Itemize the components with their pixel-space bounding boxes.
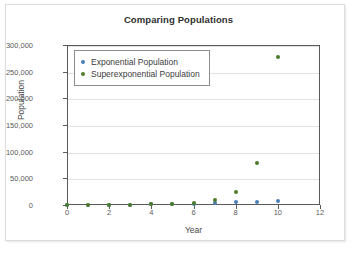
chart-figure: Comparing Populations Population Year 05…	[0, 0, 357, 255]
data-point	[276, 55, 280, 59]
y-axis-tick-mark	[63, 125, 67, 126]
data-point	[170, 202, 174, 206]
data-point	[255, 200, 259, 204]
gridline	[68, 99, 319, 100]
data-point	[128, 203, 132, 207]
x-axis-tick-label: 8	[234, 208, 238, 217]
y-axis-tick-mark	[63, 178, 67, 179]
data-point	[255, 161, 259, 165]
data-point	[86, 203, 90, 207]
x-axis-tick-mark	[320, 205, 321, 209]
y-axis-tick-label: 50,000	[0, 174, 33, 183]
legend-item: Superexponential Population	[81, 68, 200, 80]
data-point	[107, 203, 111, 207]
chart-legend: Exponential PopulationSuperexponential P…	[74, 50, 210, 86]
gridline	[68, 126, 319, 127]
data-point	[149, 202, 153, 206]
legend-marker-icon	[81, 60, 85, 64]
x-axis-tick-label: 0	[65, 208, 69, 217]
gridline	[68, 153, 319, 154]
legend-marker-icon	[81, 72, 85, 76]
x-axis-label: Year	[67, 225, 320, 235]
x-axis-tick-mark	[278, 205, 279, 209]
x-axis-tick-label: 12	[316, 208, 324, 217]
data-point	[234, 200, 238, 204]
y-axis-tick-label: 0	[0, 201, 33, 210]
y-axis-tick-label: 200,000	[0, 94, 33, 103]
legend-item-label: Superexponential Population	[91, 69, 200, 79]
data-point	[234, 190, 238, 194]
x-axis-tick-label: 2	[107, 208, 111, 217]
chart-title: Comparing Populations	[0, 14, 357, 25]
x-axis-tick-label: 4	[149, 208, 153, 217]
y-axis-tick-mark	[63, 72, 67, 73]
data-point	[192, 201, 196, 205]
y-axis-tick-mark	[63, 98, 67, 99]
legend-item-label: Exponential Population	[91, 57, 178, 67]
x-axis-tick-mark	[236, 205, 237, 209]
y-axis-tick-label: 100,000	[0, 147, 33, 156]
y-axis-tick-mark	[63, 45, 67, 46]
x-axis-tick-mark	[194, 205, 195, 209]
data-point	[276, 199, 280, 203]
data-point	[213, 198, 217, 202]
gridline	[68, 46, 319, 47]
y-axis-tick-label: 150,000	[0, 121, 33, 130]
legend-item: Exponential Population	[81, 56, 200, 68]
x-axis-tick-label: 6	[191, 208, 195, 217]
y-axis-tick-label: 300,000	[0, 41, 33, 50]
x-axis-tick-label: 10	[274, 208, 282, 217]
y-axis-tick-label: 250,000	[0, 67, 33, 76]
data-point	[65, 203, 69, 207]
gridline	[68, 179, 319, 180]
y-axis-tick-mark	[63, 152, 67, 153]
